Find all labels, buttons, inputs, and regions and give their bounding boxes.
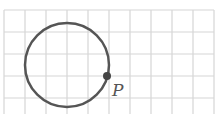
point-p-marker bbox=[103, 72, 111, 80]
grid-diagram: P bbox=[0, 0, 219, 114]
point-p-label: P bbox=[111, 80, 124, 100]
